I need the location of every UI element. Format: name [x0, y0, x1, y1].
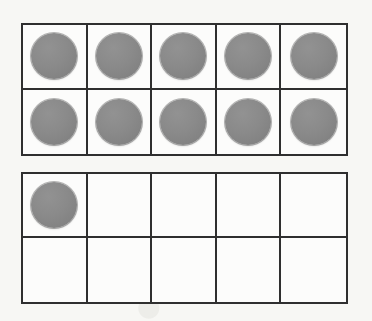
counter-token[interactable]	[160, 33, 206, 79]
counter-token[interactable]	[225, 99, 271, 145]
counter-token[interactable]	[96, 99, 142, 145]
frame-cell-r2-c2[interactable]	[88, 238, 153, 302]
frame-cell-r1-c2[interactable]	[88, 174, 153, 238]
frame-cell-r1-c5[interactable]	[281, 174, 346, 238]
frame-cell-r2-c5[interactable]	[281, 238, 346, 302]
frame-cell-r1-c1[interactable]	[23, 25, 88, 90]
counter-token[interactable]	[31, 33, 77, 79]
frame-cell-r1-c3[interactable]	[152, 174, 217, 238]
worksheet-page	[0, 0, 372, 321]
counter-token[interactable]	[225, 33, 271, 79]
frame-cell-r2-c4[interactable]	[217, 238, 282, 302]
frame-cell-r2-c4[interactable]	[217, 90, 282, 155]
frame-cell-r2-c1[interactable]	[23, 90, 88, 155]
counter-token[interactable]	[96, 33, 142, 79]
frame-cell-r2-c3[interactable]	[152, 238, 217, 302]
frame-cell-r1-c4[interactable]	[217, 174, 282, 238]
frame-cell-r1-c1[interactable]	[23, 174, 88, 238]
counter-token[interactable]	[291, 33, 337, 79]
counter-token[interactable]	[31, 182, 77, 228]
ten-frame-2[interactable]	[21, 172, 348, 304]
frame-cell-r1-c4[interactable]	[217, 25, 282, 90]
frame-cell-r2-c5[interactable]	[281, 90, 346, 155]
frame-cell-r2-c1[interactable]	[23, 238, 88, 302]
ten-frame-1[interactable]	[21, 23, 348, 156]
frame-cell-r1-c3[interactable]	[152, 25, 217, 90]
frame-cell-r2-c2[interactable]	[88, 90, 153, 155]
counter-token[interactable]	[160, 99, 206, 145]
frame-cell-r1-c5[interactable]	[281, 25, 346, 90]
counter-token[interactable]	[31, 99, 77, 145]
frame-cell-r2-c3[interactable]	[152, 90, 217, 155]
counter-token[interactable]	[291, 99, 337, 145]
frame-cell-r1-c2[interactable]	[88, 25, 153, 90]
